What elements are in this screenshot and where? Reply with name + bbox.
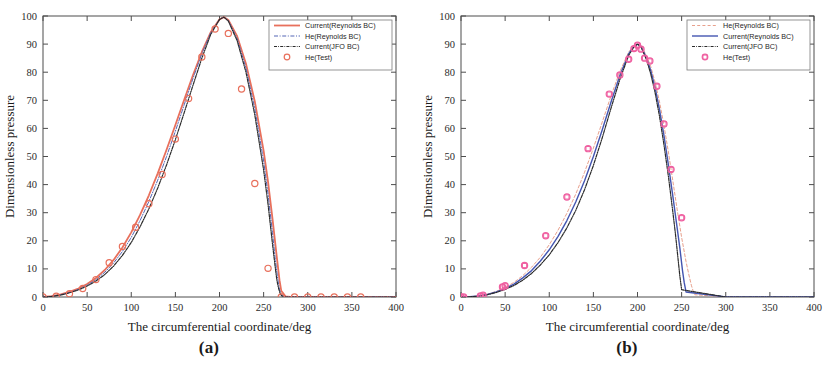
x-tick-label: 200 [630,302,646,313]
y-tick-label: 30 [445,207,456,218]
y-tick-label: 0 [32,292,37,303]
y-tick-label: 100 [21,11,37,22]
legend-label: Current(Reynolds BC) [305,21,376,30]
x-tick-label: 350 [762,302,778,313]
y-tick-label: 30 [27,207,38,218]
x-axis-title: The circumferential coordinate/deg [128,319,312,334]
chart-panel-a: 0501001502002503003504000102030405060708… [0,0,418,340]
y-tick-label: 20 [27,235,38,246]
x-tick-label: 100 [123,302,139,313]
y-tick-label: 70 [27,95,38,106]
x-tick-label: 0 [458,302,463,313]
x-tick-label: 150 [586,302,602,313]
y-tick-label: 40 [445,179,456,190]
y-axis-title: Dimensionless pressure [2,95,17,218]
y-tick-label: 50 [27,151,38,162]
legend-label: He(Reynolds BC) [305,32,361,41]
y-tick-label: 60 [27,123,38,134]
x-tick-label: 300 [300,302,316,313]
legend-label: He(Reynolds BC) [723,21,779,30]
legend-label: He(Test) [723,53,750,62]
y-tick-label: 90 [27,39,38,50]
panel-b-caption: (b) [418,338,836,358]
x-tick-label: 250 [674,302,690,313]
y-tick-label: 90 [445,39,456,50]
panel-a: 0501001502002503003504000102030405060708… [0,0,418,379]
y-tick-label: 20 [445,235,456,246]
y-tick-label: 60 [445,123,456,134]
legend-label: Current(JFO BC) [723,42,777,51]
figure-container: 0501001502002503003504000102030405060708… [0,0,836,379]
x-tick-label: 400 [388,302,404,313]
x-tick-label: 200 [212,302,228,313]
x-tick-label: 300 [718,302,734,313]
y-tick-label: 70 [445,95,456,106]
x-axis-title: The circumferential coordinate/deg [546,319,730,334]
x-tick-label: 50 [500,302,511,313]
y-tick-label: 100 [439,11,455,22]
legend-label: He(Test) [305,53,332,62]
y-tick-label: 80 [445,67,456,78]
y-tick-label: 10 [445,263,456,274]
panel-b: 0501001502002503003504000102030405060708… [418,0,836,379]
x-tick-label: 350 [344,302,360,313]
y-tick-label: 40 [27,179,38,190]
x-tick-label: 400 [806,302,822,313]
legend-label: Current(JFO BC) [305,42,359,51]
chart-panel-b: 0501001502002503003504000102030405060708… [418,0,836,340]
x-tick-label: 100 [541,302,557,313]
y-tick-label: 0 [450,292,455,303]
x-tick-label: 150 [168,302,184,313]
y-tick-label: 80 [27,67,38,78]
y-tick-label: 50 [445,151,456,162]
legend-label: Current(Reynolds BC) [723,32,794,41]
y-tick-label: 10 [27,263,38,274]
x-tick-label: 50 [82,302,93,313]
panel-a-caption: (a) [0,338,418,358]
y-axis-title: Dimensionless pressure [420,95,435,218]
x-tick-label: 0 [40,302,45,313]
x-tick-label: 250 [256,302,272,313]
